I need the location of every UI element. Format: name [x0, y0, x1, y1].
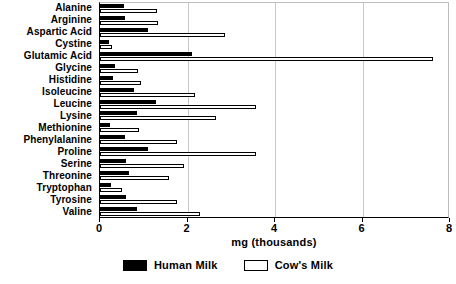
- bar-cows-milk: [100, 9, 157, 13]
- bar-group: [100, 134, 448, 146]
- bar-human-milk: [100, 123, 110, 127]
- bar-series-container: [100, 3, 448, 217]
- bar-human-milk: [100, 40, 109, 44]
- bar-human-milk: [100, 64, 115, 68]
- bar-group: [100, 193, 448, 205]
- bar-human-milk: [100, 111, 137, 115]
- bar-group: [100, 86, 448, 98]
- bar-cows-milk: [100, 57, 433, 61]
- bar-cows-milk: [100, 45, 112, 49]
- y-axis-label: Proline: [0, 146, 96, 158]
- y-axis-label: Serine: [0, 158, 96, 170]
- y-axis-label: Aspartic Acid: [0, 26, 96, 38]
- bar-human-milk: [100, 100, 156, 104]
- bar-cows-milk: [100, 105, 256, 109]
- bar-group: [100, 122, 448, 134]
- bar-cows-milk: [100, 152, 256, 156]
- y-axis-label: Methionine: [0, 122, 96, 134]
- bar-group: [100, 3, 448, 15]
- y-axis-label: Threonine: [0, 170, 96, 182]
- bar-cows-milk: [100, 69, 138, 73]
- chart-legend: Human Milk Cow's Milk: [0, 259, 456, 271]
- bar-group: [100, 146, 448, 158]
- bar-cows-milk: [100, 21, 158, 25]
- bar-human-milk: [100, 135, 125, 139]
- bar-human-milk: [100, 88, 134, 92]
- y-axis-label: Tryptophan: [0, 182, 96, 194]
- x-axis-tick-label: 4: [271, 223, 277, 234]
- bar-group: [100, 181, 448, 193]
- bar-human-milk: [100, 183, 111, 187]
- bar-cows-milk: [100, 200, 177, 204]
- legend-item-cows-milk: Cow's Milk: [244, 259, 333, 271]
- bar-human-milk: [100, 207, 137, 211]
- bar-human-milk: [100, 28, 148, 32]
- y-axis-label: Alanine: [0, 2, 96, 14]
- bar-group: [100, 110, 448, 122]
- x-axis-title: mg (thousands): [99, 236, 449, 248]
- bar-human-milk: [100, 171, 129, 175]
- y-axis-label: Phenylalanine: [0, 134, 96, 146]
- bar-cows-milk: [100, 212, 200, 216]
- y-axis-label: Tyrosine: [0, 194, 96, 206]
- y-axis-label: Glycine: [0, 62, 96, 74]
- plot-area: [99, 2, 449, 218]
- bar-human-milk: [100, 159, 126, 163]
- bar-group: [100, 98, 448, 110]
- y-axis-label: Isoleucine: [0, 86, 96, 98]
- amino-acid-bar-chart: AlanineArginineAspartic AcidCystineGluta…: [0, 0, 456, 284]
- bar-cows-milk: [100, 33, 225, 37]
- x-axis-tick-label: 8: [446, 223, 452, 234]
- filled-black-swatch-icon: [123, 260, 147, 271]
- bar-human-milk: [100, 4, 124, 8]
- bar-human-milk: [100, 147, 148, 151]
- bar-cows-milk: [100, 93, 195, 97]
- bar-cows-milk: [100, 81, 141, 85]
- y-axis-label: Leucine: [0, 98, 96, 110]
- bar-human-milk: [100, 52, 192, 56]
- bar-group: [100, 15, 448, 27]
- bar-group: [100, 158, 448, 170]
- y-axis-label: Lysine: [0, 110, 96, 122]
- y-axis-category-labels: AlanineArginineAspartic AcidCystineGluta…: [0, 2, 96, 218]
- bar-group: [100, 205, 448, 217]
- y-axis-label: Cystine: [0, 38, 96, 50]
- x-axis-tick-label: 6: [358, 223, 364, 234]
- bar-cows-milk: [100, 140, 177, 144]
- bar-group: [100, 169, 448, 181]
- legend-item-human-milk: Human Milk: [123, 259, 218, 271]
- bar-group: [100, 39, 448, 51]
- x-axis-tick-label: 0: [96, 223, 102, 234]
- y-axis-label: Valine: [0, 206, 96, 218]
- legend-label-human-milk: Human Milk: [154, 259, 218, 271]
- bar-group: [100, 51, 448, 63]
- outlined-white-swatch-icon: [244, 260, 268, 271]
- bar-human-milk: [100, 195, 126, 199]
- x-axis-tick-label: 2: [183, 223, 189, 234]
- legend-label-cows-milk: Cow's Milk: [275, 259, 333, 271]
- bar-human-milk: [100, 76, 113, 80]
- y-axis-label: Histidine: [0, 74, 96, 86]
- bar-cows-milk: [100, 164, 184, 168]
- bar-cows-milk: [100, 116, 216, 120]
- y-axis-label: Arginine: [0, 14, 96, 26]
- bar-cows-milk: [100, 128, 139, 132]
- bar-group: [100, 62, 448, 74]
- y-axis-label: Glutamic Acid: [0, 50, 96, 62]
- bar-cows-milk: [100, 188, 122, 192]
- bar-human-milk: [100, 16, 125, 20]
- bar-cows-milk: [100, 176, 169, 180]
- bar-group: [100, 27, 448, 39]
- bar-group: [100, 74, 448, 86]
